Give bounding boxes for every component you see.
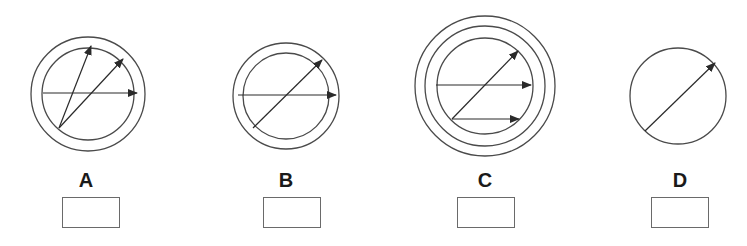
answer-box-c[interactable] <box>457 197 515 228</box>
figure-label-a: A <box>66 169 106 191</box>
arrow-a-1 <box>59 46 91 128</box>
answer-box-d[interactable] <box>651 197 709 228</box>
figures-layer <box>31 16 726 156</box>
figure-label-b: B <box>266 169 306 191</box>
answer-box-b[interactable] <box>263 197 321 228</box>
figure-c <box>415 16 555 156</box>
figure-label-d: D <box>660 169 700 191</box>
figure-b <box>233 43 339 149</box>
answer-box-a[interactable] <box>62 197 120 228</box>
figure-a <box>31 37 145 151</box>
ring-c-2 <box>425 26 545 146</box>
arrow-d-1 <box>645 63 715 131</box>
figure-label-c: C <box>465 169 505 191</box>
ring-d-1 <box>630 48 726 144</box>
ring-c-1 <box>415 16 555 156</box>
arrow-b-2 <box>253 60 322 128</box>
figure-d <box>630 48 726 144</box>
